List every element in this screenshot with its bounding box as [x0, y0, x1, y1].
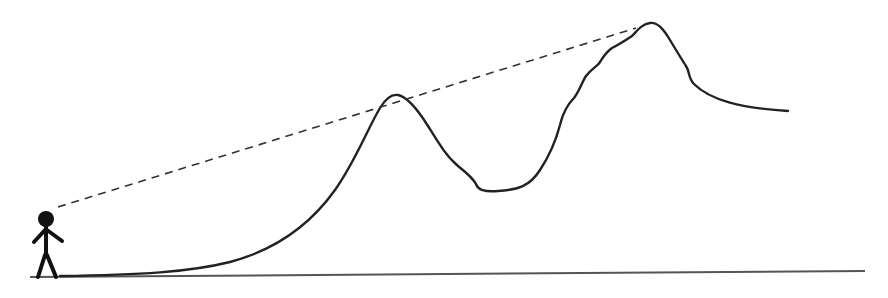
observer-stick-figure [34, 211, 62, 277]
observer-left-arm [34, 230, 45, 242]
diagram-canvas: Line of sight from an observer over two … [0, 0, 888, 298]
observer-head [38, 211, 54, 227]
diagram-description: Line of sight from an observer over two … [0, 0, 25, 1]
observer-right-arm [47, 230, 62, 241]
observer-right-leg [47, 255, 56, 277]
sight-line [58, 28, 636, 207]
mountain-sightline-diagram [0, 0, 888, 298]
observer-left-leg [38, 255, 45, 277]
terrain-curve [60, 23, 788, 276]
